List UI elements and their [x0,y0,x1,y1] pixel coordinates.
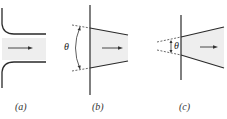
theta-label-c: θ [174,40,179,51]
panel-label-a: (a) [15,101,27,112]
lower-wall-a [2,62,46,88]
dim-arrow-icon [170,50,173,53]
panel-label-b: (b) [92,101,104,112]
arc-arrow-icon [78,27,81,31]
theta-label-b: θ [64,41,69,52]
panel-label-c: (c) [179,101,190,112]
diagram-canvas [0,0,227,119]
arc-arrow-icon [78,66,81,70]
upper-wall-a [2,8,46,34]
dim-arrow-icon [170,40,173,43]
flow-region-a [2,38,46,60]
panel-b [72,5,128,95]
dashed-ext-upper-b [72,25,90,28]
dashed-ext-lower-b [72,68,90,71]
panel-a [2,8,46,88]
panel-c [157,15,224,80]
angle-arc-b [76,27,81,69]
